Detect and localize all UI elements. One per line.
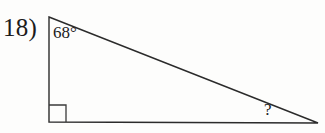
problem-figure-canvas: 18) 68° ? — [0, 0, 325, 133]
angle-label-top-vertex: 68° — [53, 24, 77, 41]
right-angle-marker-icon — [49, 105, 66, 122]
right-triangle-figure — [0, 0, 325, 133]
triangle-outline — [49, 17, 318, 123]
angle-label-unknown-vertex: ? — [264, 101, 272, 118]
problem-number-label: 18) — [3, 15, 37, 40]
